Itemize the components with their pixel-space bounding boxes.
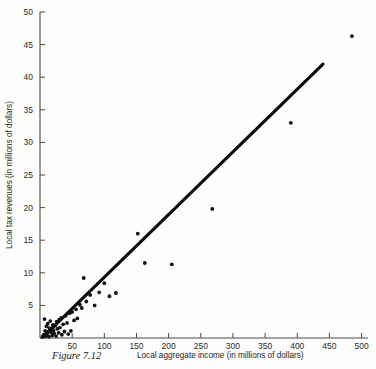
data-point — [64, 314, 68, 318]
x-tick-label: 500 — [354, 341, 368, 351]
scatter-plot: 5101520253035404550 50100150200250300350… — [0, 0, 376, 369]
y-tick-label: 25 — [24, 170, 34, 180]
x-tick-label: 450 — [322, 341, 336, 351]
data-point — [48, 319, 52, 323]
data-point — [72, 318, 76, 322]
x-tick-label: 350 — [258, 341, 272, 351]
data-point — [210, 207, 214, 211]
data-point — [108, 294, 112, 298]
data-point — [114, 291, 118, 295]
x-axis-title: Local aggregate income (in millions of d… — [137, 351, 304, 360]
x-tick-label: 150 — [129, 341, 143, 351]
data-point — [54, 324, 58, 328]
data-point — [102, 281, 106, 285]
y-axis-title: Local tax revenues (in millions of dolla… — [5, 101, 14, 249]
data-point — [136, 232, 140, 236]
data-point — [66, 332, 70, 336]
data-point — [88, 293, 92, 297]
data-point — [65, 321, 69, 325]
y-tick-label: 30 — [24, 137, 34, 147]
data-point — [97, 290, 101, 294]
data-point — [57, 331, 61, 335]
data-point — [143, 261, 147, 265]
x-tick-label: 300 — [226, 341, 240, 351]
y-tick-label: 5 — [28, 300, 33, 310]
data-point — [43, 329, 47, 333]
y-axis-ticks: 5101520253035404550 — [24, 7, 45, 338]
data-point — [80, 306, 84, 310]
data-point — [61, 322, 65, 326]
y-tick-label: 50 — [24, 7, 34, 17]
y-tick-label: 20 — [24, 203, 34, 213]
y-tick-label: 10 — [24, 268, 34, 278]
data-point — [75, 317, 79, 321]
data-point — [82, 276, 86, 280]
data-point — [350, 34, 354, 38]
data-point — [52, 328, 56, 332]
data-point — [69, 329, 73, 333]
regression-line — [44, 64, 323, 336]
x-tick-label: 400 — [290, 341, 304, 351]
data-point — [170, 262, 174, 266]
figure-caption-label: Figure 7.12 — [51, 350, 102, 361]
y-tick-label: 40 — [24, 72, 34, 82]
x-tick-label: 200 — [162, 341, 176, 351]
data-point — [84, 300, 88, 304]
y-tick-label: 45 — [24, 40, 34, 50]
data-point — [54, 334, 58, 338]
data-point — [43, 317, 47, 321]
figure-container: 5101520253035404550 50100150200250300350… — [0, 0, 376, 369]
data-point — [78, 303, 82, 307]
data-point — [93, 304, 97, 308]
data-point — [70, 310, 74, 314]
data-point — [74, 307, 78, 311]
y-tick-label: 35 — [24, 105, 34, 115]
data-point — [63, 330, 67, 334]
data-point — [59, 316, 63, 320]
data-point — [58, 326, 62, 330]
y-tick-label: 15 — [24, 235, 34, 245]
x-axis-ticks: 50100150200250300350400450500 — [67, 333, 369, 351]
data-point — [60, 333, 64, 337]
x-tick-label: 250 — [194, 341, 208, 351]
data-point — [289, 121, 293, 125]
